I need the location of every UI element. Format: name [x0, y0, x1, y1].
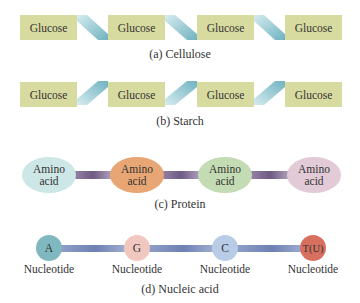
amino-acid-unit: Aminoacid: [22, 157, 76, 193]
nucleotide-a: A: [36, 235, 62, 261]
glucose-unit: Glucose: [285, 15, 342, 40]
nucleotide-g: G: [124, 235, 150, 261]
protein-caption: (c) Protein: [0, 197, 360, 212]
cellulose-caption: (a) Cellulose: [0, 47, 360, 62]
amino-acid-unit: Aminoacid: [287, 157, 341, 193]
amino-acid-unit: Aminoacid: [198, 157, 252, 193]
amino-acid-unit: Aminoacid: [110, 157, 164, 193]
glucose-unit: Glucose: [20, 15, 77, 40]
nucleotide-t-u: T(U): [300, 235, 326, 261]
nucleotide-c: C: [212, 235, 238, 261]
phosphodiester-bond: [60, 245, 130, 252]
phosphodiester-bond: [236, 245, 308, 252]
peptide-bond: [160, 171, 202, 179]
glucose-unit: Glucose: [285, 82, 342, 107]
glucose-unit: Glucose: [20, 82, 77, 107]
nucleic-acid-caption: (d) Nucleic acid: [0, 282, 360, 297]
nucleotide-label: Nucleotide: [273, 263, 353, 275]
glucose-unit: Glucose: [197, 15, 254, 40]
glucose-unit: Glucose: [197, 82, 254, 107]
starch-caption: (b) Starch: [0, 114, 360, 129]
peptide-bond: [249, 171, 291, 179]
nucleotide-label: Nucleotide: [9, 263, 89, 275]
peptide-bond: [72, 171, 114, 179]
phosphodiester-bond: [148, 245, 218, 252]
nucleotide-label: Nucleotide: [97, 263, 177, 275]
glucose-unit: Glucose: [108, 15, 165, 40]
glucose-unit: Glucose: [108, 82, 165, 107]
nucleotide-label: Nucleotide: [185, 263, 265, 275]
